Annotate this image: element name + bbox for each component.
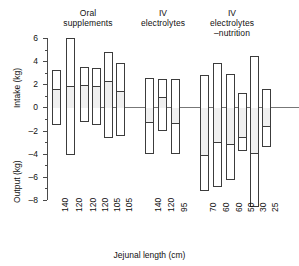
bar-mid-rule [116,91,125,92]
y-tick-minor [45,165,48,166]
bar [262,89,271,147]
group-title-oral-supplements: Oral supplements [50,8,126,28]
bar [226,74,235,180]
x-tick-label: 50 [246,203,256,212]
x-tick-label: 140 [153,198,163,212]
x-tick-label: 120 [166,198,176,212]
bar-shaded-band [53,89,60,108]
y-tick-label: –6 [29,172,38,182]
y-tick-major [43,107,47,108]
x-tick-label: 95 [179,203,189,212]
bar-mid-rule [238,137,247,138]
y-axis-title-intake: Intake (kg) [12,68,22,108]
bar-mid-rule [66,86,75,87]
bar-shaded-band [227,108,234,144]
y-tick-major [43,177,47,178]
x-tick-label: 60 [221,203,231,212]
x-axis-title: Jejunal length (cm) [0,250,299,260]
y-tick-minor [45,50,48,51]
bar-shaded-band [117,91,124,108]
x-tick-label: 120 [88,198,98,212]
x-tick-label: 120 [100,198,110,212]
bar-mid-rule [145,122,154,123]
bar [80,67,89,123]
bar-mid-rule [171,123,180,124]
bar-shaded-band [251,108,258,153]
y-tick-label: 0 [33,102,38,112]
bar [238,93,247,151]
y-tick-major [43,154,47,155]
bar-shaded-band [239,108,246,136]
y-axis-ticks [40,38,47,200]
bar-mid-rule [213,142,222,143]
bar-mid-rule [262,126,271,127]
bar-shaded-band [146,108,153,122]
bar-mid-rule [200,155,209,156]
x-tick-label: 70 [208,203,218,212]
y-tick-label: 4 [33,56,38,66]
bar-mid-rule [92,86,101,87]
y-tick-major [43,131,47,132]
bar [213,63,222,187]
bar [92,68,101,125]
bar [171,79,180,155]
group-title-iv-electrolytes: IV electrolytes [133,8,193,28]
bar-mid-rule [104,81,113,82]
bar-shaded-band [81,85,88,109]
group-title-iv-electrolytes-nutrition: IV electrolytes –nutrition [198,8,266,38]
x-tick-label: 25 [270,203,280,212]
y-tick-label: 2 [33,79,38,89]
bar-mid-rule [52,89,61,90]
plot-area [48,38,276,200]
bar [200,75,209,191]
bar [250,56,259,207]
bar-shaded-band [201,108,208,155]
y-tick-label: 6 [33,33,38,43]
y-tick-label: –8 [29,195,38,205]
chart-figure: Oral supplements IV electrolytes IV elec… [0,0,299,266]
bar [104,52,113,138]
bar [116,63,125,136]
y-tick-minor [45,96,48,97]
bar-mid-rule [226,144,235,145]
y-tick-minor [45,73,48,74]
x-tick-label: 120 [74,198,84,212]
y-tick-major [43,84,47,85]
bar-shaded-band [93,86,100,109]
bar [66,38,75,155]
bar-shaded-band [67,86,74,108]
bar-mid-rule [158,97,167,98]
x-tick-label: 105 [112,198,122,212]
y-tick-label: –4 [29,149,38,159]
bar-mid-rule [250,153,259,154]
x-tick-label: 30 [258,203,268,212]
y-tick-minor [45,188,48,189]
bar [158,79,167,131]
bar-shaded-band [172,108,179,122]
bar-shaded-band [105,81,112,108]
bar-shaded-band [159,97,166,108]
bar-shaded-band [263,108,270,125]
bar [52,70,61,124]
y-tick-label: –2 [29,126,38,136]
bar-mid-rule [80,85,89,86]
y-axis-title-output: Output (kg) [12,160,22,203]
x-tick-label: 140 [60,198,70,212]
bar [145,78,154,154]
y-tick-minor [45,142,48,143]
bar-shaded-band [214,108,221,142]
y-tick-major [43,61,47,62]
x-tick-label: 60 [234,203,244,212]
y-tick-major [43,200,47,201]
y-tick-minor [45,119,48,120]
y-tick-major [43,38,47,39]
x-tick-label: 105 [124,198,134,212]
